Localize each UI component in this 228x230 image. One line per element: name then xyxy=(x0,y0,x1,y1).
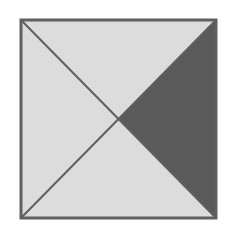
square-diagonals-diagram xyxy=(0,0,228,230)
